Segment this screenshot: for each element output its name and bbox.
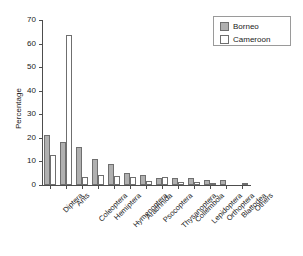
bar-cameroon-others — [242, 183, 248, 185]
y-tick-label: 60 — [10, 39, 36, 48]
bar-cameroon-hymenoptera — [114, 176, 120, 185]
bar-cameroon-orthoptera — [210, 183, 216, 185]
legend-swatch-borneo — [220, 22, 229, 31]
x-tick-label-others: Others — [253, 191, 275, 213]
bar-cameroon-ants — [66, 35, 72, 185]
x-tick-mark — [66, 186, 67, 189]
x-tick-mark — [130, 186, 131, 189]
y-tick-mark — [39, 185, 43, 186]
y-tick-mark — [39, 91, 43, 92]
x-tick-mark — [146, 186, 147, 189]
x-tick-mark — [114, 186, 115, 189]
bar-cameroon-thysanoptera — [162, 177, 168, 185]
legend-swatch-cameroon — [220, 35, 229, 44]
bar-cameroon-hemiptera — [98, 175, 104, 185]
bar-borneo-blattodea — [220, 180, 226, 185]
bar-cameroon-arachnida — [130, 177, 136, 185]
chart-legend: BorneoCameroon — [213, 16, 291, 46]
legend-label-borneo: Borneo — [233, 22, 259, 31]
x-tick-mark — [50, 186, 51, 189]
bar-chart-figure: Percentage010203040506070DipteraAntsCole… — [0, 0, 303, 256]
bar-cameroon-psocoptera — [146, 181, 152, 185]
legend-entry-borneo: Borneo — [220, 22, 259, 31]
y-tick-mark — [39, 20, 43, 21]
legend-entry-cameroon: Cameroon — [220, 35, 270, 44]
y-tick-label: 70 — [10, 15, 36, 24]
y-tick-label: 40 — [10, 86, 36, 95]
bar-cameroon-diptera — [50, 155, 56, 185]
y-tick-label: 0 — [10, 180, 36, 189]
y-tick-mark — [39, 44, 43, 45]
x-tick-mark — [82, 186, 83, 189]
x-tick-mark — [226, 186, 227, 189]
y-tick-mark — [39, 67, 43, 68]
bar-cameroon-coleoptera — [82, 177, 88, 185]
x-tick-mark — [194, 186, 195, 189]
x-tick-mark — [98, 186, 99, 189]
legend-label-cameroon: Cameroon — [233, 35, 270, 44]
y-tick-label: 30 — [10, 109, 36, 118]
x-tick-mark — [210, 186, 211, 189]
y-tick-mark — [39, 138, 43, 139]
bar-cameroon-collembola — [178, 182, 184, 185]
y-tick-label: 50 — [10, 62, 36, 71]
x-tick-mark — [178, 186, 179, 189]
y-tick-label: 10 — [10, 156, 36, 165]
x-tick-mark — [242, 186, 243, 189]
bar-cameroon-lepidoptera — [194, 182, 200, 185]
x-tick-mark — [162, 186, 163, 189]
y-tick-mark — [39, 161, 43, 162]
y-tick-label: 20 — [10, 133, 36, 142]
y-tick-mark — [39, 114, 43, 115]
